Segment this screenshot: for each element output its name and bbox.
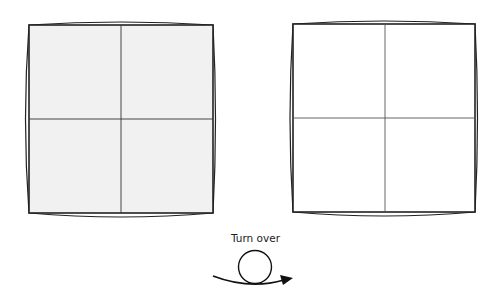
- turn-over-arrow-icon: [213, 251, 293, 286]
- origami-diagram: [0, 0, 499, 299]
- paper-square-back: [290, 21, 478, 216]
- turn-over-label: Turn over: [231, 232, 280, 244]
- paper-square-front: [26, 22, 216, 217]
